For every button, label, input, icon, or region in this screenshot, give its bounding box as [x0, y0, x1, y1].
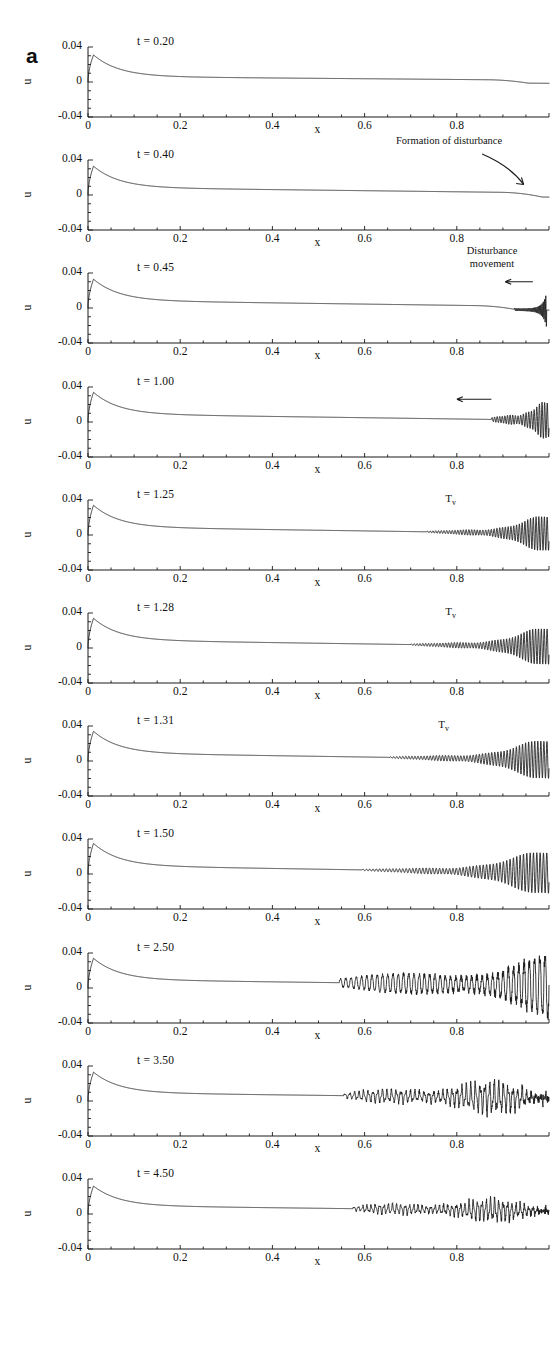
time-label: t = 1.25: [137, 488, 174, 500]
y-axis-tick-label: 0.04: [0, 379, 82, 391]
disturbance-movement-annotation: Disturbancemovement: [455, 245, 529, 270]
velocity-curve: [88, 844, 549, 894]
y-axis-tick-label: 0: [0, 753, 82, 765]
y-axis-tick-label: 0: [0, 866, 82, 878]
y-axis-tick-label: 0.04: [0, 945, 82, 957]
tv-subscript: v: [445, 724, 449, 733]
y-axis-tick-label: 0.04: [0, 39, 82, 51]
x-axis-tick-label: 0: [68, 1251, 108, 1263]
y-axis-name: u: [20, 758, 35, 764]
y-axis-tick-label: 0.04: [0, 605, 82, 617]
velocity-curve: [88, 280, 549, 327]
tv-symbol: T: [445, 605, 452, 617]
tv-label: Tv: [445, 492, 456, 507]
tv-label: Tv: [445, 605, 456, 620]
y-axis-tick-label: 0: [0, 1206, 82, 1218]
disturbance-movement-line-2: movement: [455, 258, 529, 271]
y-axis-name: u: [20, 192, 35, 198]
formation-arrow: [482, 154, 523, 185]
y-axis-name: u: [20, 984, 35, 990]
y-axis-tick-label: 0: [0, 527, 82, 539]
y-axis-tick-label: 0.04: [0, 1171, 82, 1183]
time-label: t = 4.50: [137, 1167, 174, 1179]
formation-of-disturbance-annotation: Formation of disturbance: [396, 135, 502, 148]
velocity-curve: [88, 55, 549, 83]
time-label: t = 1.50: [137, 827, 174, 839]
y-axis-tick-label: 0.04: [0, 265, 82, 277]
velocity-curve: [88, 955, 549, 1019]
y-axis-tick-label: 0.04: [0, 831, 82, 843]
time-label: t = 0.20: [137, 35, 174, 47]
y-axis-name: u: [20, 79, 35, 85]
velocity-curve: [88, 1072, 549, 1117]
y-axis-tick-label: 0.04: [0, 1058, 82, 1070]
y-axis-name: u: [20, 645, 35, 651]
time-label: t = 3.50: [137, 1054, 174, 1066]
velocity-curve: [88, 505, 549, 550]
y-axis-tick-label: 0: [0, 74, 82, 86]
x-axis-tick-label: 0.2: [160, 1251, 200, 1263]
y-axis-name: u: [20, 305, 35, 311]
x-axis-tick-label: 0.8: [437, 1251, 477, 1263]
y-axis-tick-label: 0: [0, 300, 82, 312]
time-label: t = 2.50: [137, 941, 174, 953]
y-axis-name: u: [20, 1211, 35, 1217]
time-panel: 0.040-0.04u00.20.40.60.8xt = 4.50: [0, 1145, 558, 1283]
disturbance-direction-arrow: [457, 396, 492, 401]
x-axis-tick-label: 0.4: [252, 1251, 292, 1263]
tv-label: Tv: [438, 718, 449, 733]
tv-subscript: v: [452, 611, 456, 620]
y-axis-name: u: [20, 418, 35, 424]
y-axis-name: u: [20, 531, 35, 537]
time-label: t = 0.40: [137, 148, 174, 160]
y-axis-tick-label: 0.04: [0, 718, 82, 730]
time-label: t = 0.45: [137, 261, 174, 273]
y-axis-tick-label: 0: [0, 1093, 82, 1105]
y-axis-tick-label: 0: [0, 980, 82, 992]
y-axis-tick-label: 0: [0, 640, 82, 652]
velocity-curve: [88, 166, 549, 197]
y-axis-name: u: [20, 871, 35, 877]
figure-panel-a: a 0.040-0.04u00.20.40.60.8xt = 0.200.040…: [0, 0, 558, 1358]
y-axis-tick-label: 0: [0, 414, 82, 426]
velocity-curve: [88, 732, 549, 779]
disturbance-movement-line-1: Disturbance: [455, 245, 529, 258]
x-axis-tick-label: 0.6: [345, 1251, 385, 1263]
y-axis-tick-label: 0: [0, 187, 82, 199]
y-axis-tick-label: 0.04: [0, 492, 82, 504]
time-label: t = 1.28: [137, 601, 174, 613]
disturbance-direction-arrow: [505, 280, 533, 285]
velocity-curve: [88, 618, 549, 664]
time-label: t = 1.31: [137, 714, 174, 726]
tv-symbol: T: [445, 492, 452, 504]
time-label: t = 1.00: [137, 375, 174, 387]
y-axis-name: u: [20, 1097, 35, 1103]
velocity-curve: [88, 1186, 549, 1223]
tv-subscript: v: [452, 498, 456, 507]
y-axis-tick-label: 0.04: [0, 152, 82, 164]
x-axis-name: x: [315, 1255, 321, 1267]
